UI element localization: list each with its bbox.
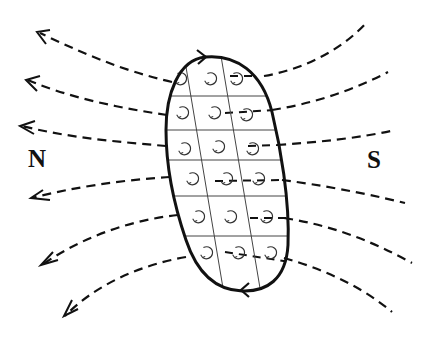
field-line-right-5: [284, 218, 412, 263]
field-line-arrowheads: [20, 30, 78, 316]
current-loop-icon: [247, 143, 259, 155]
field-line-left-3: [22, 126, 166, 146]
grid-col-line: [184, 55, 225, 300]
field-lines-right: [264, 22, 412, 312]
arrowhead-icon: [64, 300, 78, 316]
field-lines-left: [22, 33, 186, 316]
magnet-domain-diagram: N S: [0, 0, 430, 338]
internal-field-segments: [215, 76, 290, 262]
current-loop-icon: [213, 141, 225, 153]
current-loop-icon: [221, 173, 233, 185]
domain-loops: [175, 73, 277, 259]
field-line-right-3: [277, 130, 395, 145]
diagram-canvas: [0, 0, 430, 338]
south-pole-label: S: [367, 147, 381, 172]
current-loop-icon: [193, 211, 205, 223]
current-loop-icon: [201, 247, 213, 259]
current-loop-icon: [241, 109, 253, 121]
field-line-left-5: [42, 215, 178, 265]
current-loop-icon: [231, 73, 243, 85]
arrowhead-icon: [26, 76, 40, 91]
domain-grid: [160, 50, 295, 300]
current-loop-icon: [177, 107, 189, 119]
current-loop-icon: [209, 107, 221, 119]
field-line-right-4: [282, 180, 405, 203]
field-line-left-6: [65, 257, 186, 316]
field-line-left-4: [32, 177, 170, 198]
current-loop-icon: [253, 173, 265, 185]
arrowhead-icon: [41, 252, 58, 265]
current-loop-icon: [179, 143, 191, 155]
field-line-right-6: [284, 258, 392, 312]
current-loop-icon: [233, 247, 245, 259]
north-pole-label: N: [28, 146, 46, 171]
arrowhead-icon: [37, 30, 50, 44]
field-line-left-1: [40, 33, 172, 82]
grid-col-line: [220, 50, 262, 300]
current-loop-icon: [225, 211, 237, 223]
current-loop-icon: [261, 211, 273, 223]
current-loop-icon: [205, 73, 217, 85]
field-line-right-2: [272, 72, 388, 110]
field-line-right-1: [264, 22, 367, 76]
field-line-left-2: [28, 80, 167, 115]
current-loop-icon: [265, 247, 277, 259]
current-loop-icon: [187, 173, 199, 185]
